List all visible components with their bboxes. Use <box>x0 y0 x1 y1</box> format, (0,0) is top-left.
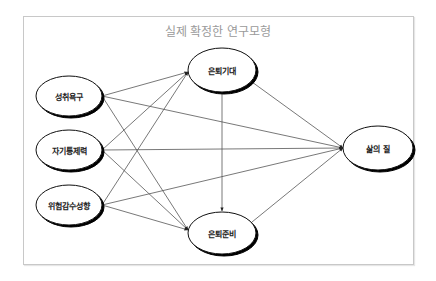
edge-selfcontrol-to-preparation <box>102 150 188 230</box>
edges <box>102 72 343 230</box>
label-retirement-preparation: 은퇴준비 <box>208 228 236 239</box>
label-retirement-expectation: 은퇴기대 <box>208 65 236 76</box>
nodes <box>36 48 413 254</box>
label-self-control: 자기통제력 <box>52 145 87 156</box>
path-diagram <box>0 0 436 281</box>
edge-risk-to-quality <box>102 148 343 205</box>
label-achievement-need: 성취욕구 <box>55 91 83 102</box>
label-quality-of-life: 삶의 질 <box>366 143 390 154</box>
label-risk-sensitivity: 위험감수성향 <box>48 200 90 211</box>
edge-achievement-to-preparation <box>102 96 188 230</box>
